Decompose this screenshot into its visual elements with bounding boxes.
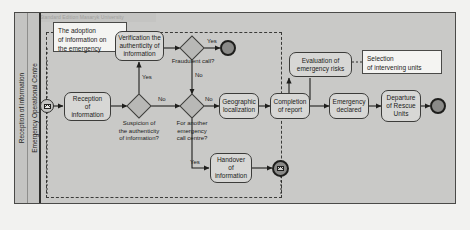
activity-departure-label: Departure of Rescue Units — [386, 94, 415, 118]
activity-verification-label: Verification the authenticity of informa… — [118, 34, 161, 58]
event-end-handover[interactable] — [272, 160, 289, 177]
event-end-fraudulent[interactable] — [220, 40, 236, 56]
envelope-icon — [277, 166, 284, 171]
envelope-icon — [44, 104, 51, 109]
flow-label-yes-fraudulent: Yes — [207, 38, 217, 44]
activity-handover-label: Handover of information — [215, 156, 247, 180]
activity-emergency-declared[interactable]: Emergency declared — [329, 93, 369, 119]
gateway-another-centre-label: For another emergency call centre? — [168, 120, 216, 143]
activity-declared-label: Emergency declared — [333, 98, 366, 114]
event-start-message[interactable] — [40, 99, 54, 113]
activity-evaluation-of-risks[interactable]: Evaluation of emergency risks — [289, 52, 352, 77]
activity-geographic-localization[interactable]: Geographic localization — [219, 93, 259, 119]
activity-evaluation-label: Evaluation of emergency risks — [297, 57, 344, 73]
event-end-departure[interactable] — [430, 98, 446, 114]
activity-reception-label: Reception of information — [71, 95, 103, 119]
gateway-suspicion-label: Suspicion of the authenticity of informa… — [104, 120, 174, 143]
note-selection-text: Selection of intervening units — [367, 55, 422, 71]
activity-verification-authenticity[interactable]: Verification the authenticity of informa… — [115, 31, 164, 61]
activity-reception-of-information[interactable]: Reception of information — [64, 92, 111, 121]
swimlane-inner: Emergency Operational Centre — [28, 13, 41, 203]
flow-label-yes-another-centre: Yes — [190, 159, 200, 165]
activity-departure-of-rescue-units[interactable]: Departure of Rescue Units — [381, 90, 421, 122]
flow-label-no-fraudulent: No — [195, 72, 203, 78]
gateway-fraudulent-label: Fraudulent call? — [162, 58, 224, 66]
flow-label-yes-verification: Yes — [142, 74, 152, 80]
activity-completion-label: Completion of report — [274, 98, 307, 114]
activity-completion-of-report[interactable]: Completion of report — [270, 93, 310, 119]
diagram-canvas: Paradigm Standard Edition Masaryk Univer… — [0, 0, 470, 230]
flow-label-no-another-centre: No — [205, 96, 213, 102]
swimlane-inner-label: Emergency Operational Centre — [30, 63, 37, 153]
flow-label-no-suspicion: No — [158, 96, 166, 102]
note-selection-of-units: Selection of intervening units — [362, 50, 442, 74]
activity-handover-of-information[interactable]: Handover of information — [210, 153, 252, 183]
activity-geographic-label: Geographic localization — [222, 98, 256, 114]
note-adoption-text: The adoption of information on the emerg… — [58, 27, 106, 52]
swimlane-outer: Reception of information — [15, 13, 28, 203]
swimlane-outer-label: Reception of information — [18, 73, 25, 143]
